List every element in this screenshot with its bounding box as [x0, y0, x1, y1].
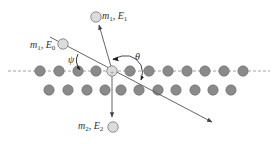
lattice-atom — [63, 85, 73, 95]
lattice-atom — [163, 66, 173, 76]
scattered-label: m1, E1 — [102, 11, 127, 24]
lattice-atom — [226, 85, 236, 95]
lattice-atom — [200, 66, 210, 76]
lattice-atom — [91, 66, 101, 76]
lattice-atom — [144, 66, 154, 76]
recoil-atom — [108, 122, 118, 132]
lattice-atom — [100, 85, 110, 95]
lattice-atom — [171, 85, 181, 95]
scattering-diagram: + m1, E1 m1, E0 m2, E2 ψ θ — [0, 0, 275, 144]
lattice-bottom-row — [44, 85, 236, 95]
psi-label: ψ — [68, 55, 74, 65]
theta-label: θ — [135, 52, 140, 62]
lattice-atom — [219, 66, 229, 76]
lattice-atom — [125, 66, 135, 76]
lattice-atom — [44, 85, 54, 95]
incident-label: m1, E0 — [30, 40, 55, 53]
lattice-atom — [190, 85, 200, 95]
lattice-atom — [182, 66, 192, 76]
lattice-atom — [116, 85, 126, 95]
incident-atom — [58, 39, 68, 49]
lattice-atom — [208, 85, 218, 95]
lattice-atom — [54, 66, 64, 76]
incident-trajectory — [50, 37, 212, 122]
scattered-atom — [91, 12, 101, 22]
lattice-atom — [134, 85, 144, 95]
diagram-canvas: + — [0, 0, 275, 144]
lattice-atom — [82, 85, 92, 95]
recoil-label: m2, E2 — [78, 121, 103, 134]
lattice-atom — [35, 66, 45, 76]
lattice-atom — [238, 66, 248, 76]
svg-text:+: + — [110, 69, 114, 75]
